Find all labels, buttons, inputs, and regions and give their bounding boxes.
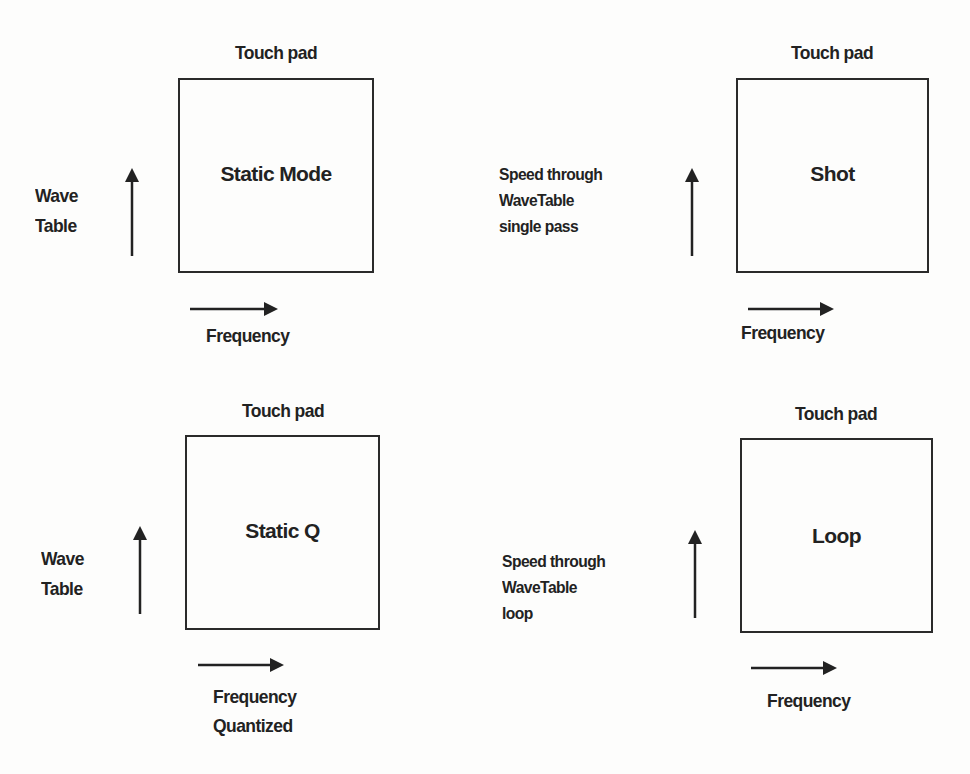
mode-label: Shot <box>738 162 927 186</box>
touch-pad-box: Loop <box>740 438 933 633</box>
y-axis-label-line2: Table <box>41 576 83 602</box>
y-axis-label-line1: Wave <box>41 546 84 572</box>
y-axis-label-line2: Table <box>35 213 77 239</box>
y-axis-label-line3: loop <box>502 601 533 627</box>
y-axis-label-line2: WaveTable <box>499 188 574 214</box>
y-axis-label-line3: single pass <box>499 214 578 240</box>
touch-pad-title: Touch pad <box>242 398 324 424</box>
right-arrow-icon <box>751 660 841 676</box>
y-axis-label-line2: WaveTable <box>502 575 577 601</box>
right-arrow-icon <box>748 301 838 317</box>
y-axis-label-line1: Speed through <box>499 162 602 188</box>
x-axis-label-line2: Quantized <box>213 713 293 739</box>
right-arrow-icon <box>198 657 288 673</box>
x-axis-label-line1: Frequency <box>213 684 296 710</box>
mode-label: Static Q <box>187 519 378 543</box>
up-arrow-icon <box>124 168 140 258</box>
x-axis-label: Frequency <box>206 323 289 349</box>
up-arrow-icon <box>132 526 148 616</box>
touch-pad-box: Static Q <box>185 435 380 630</box>
touch-pad-box: Static Mode <box>178 78 374 273</box>
x-axis-label: Frequency <box>741 320 824 346</box>
up-arrow-icon <box>687 530 703 620</box>
up-arrow-icon <box>684 168 700 258</box>
y-axis-label-line1: Speed through <box>502 549 605 575</box>
touch-pad-title: Touch pad <box>791 40 873 66</box>
x-axis-label: Frequency <box>767 688 850 714</box>
mode-label: Static Mode <box>180 162 372 186</box>
mode-label: Loop <box>742 524 931 548</box>
touch-pad-title: Touch pad <box>795 401 877 427</box>
touch-pad-box: Shot <box>736 78 929 273</box>
right-arrow-icon <box>190 301 280 317</box>
y-axis-label-line1: Wave <box>35 183 78 209</box>
touch-pad-title: Touch pad <box>235 40 317 66</box>
